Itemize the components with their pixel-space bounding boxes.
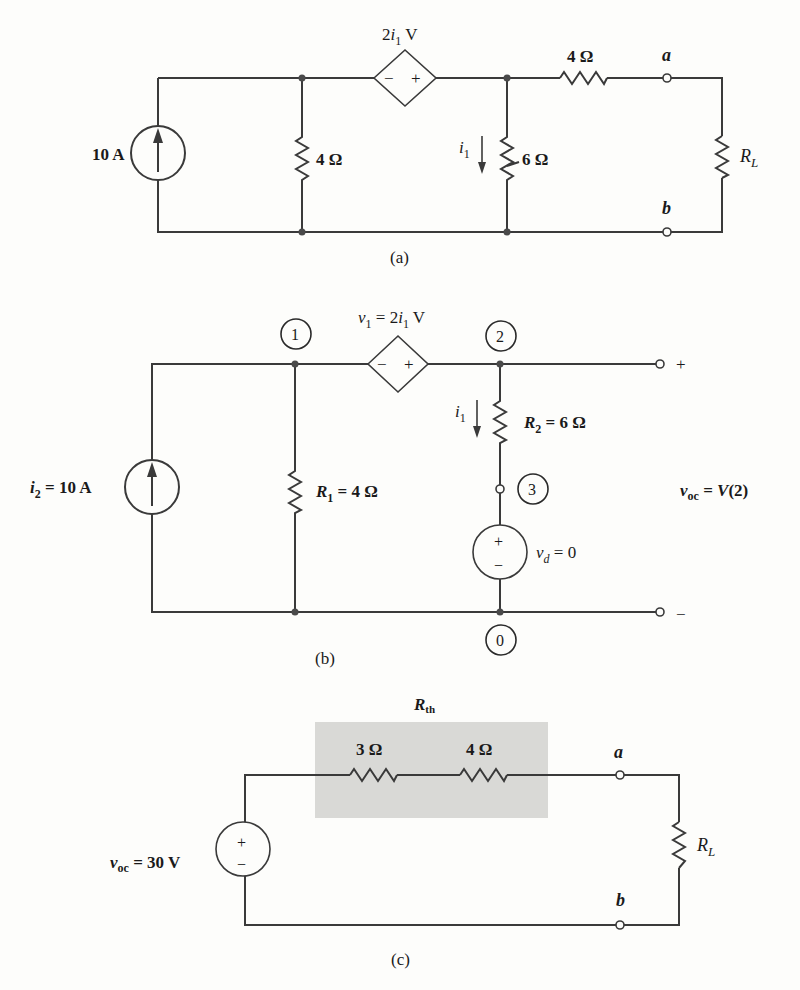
current-source-icon [125, 460, 179, 514]
junction-dot [299, 75, 306, 82]
resistor-4-label: 4 Ω [466, 740, 492, 759]
resistor-zigzag-icon [560, 72, 607, 84]
figure-a: 10 A 4 Ω − + 2i1 V 6 Ω i1 4 Ω a b RL [92, 25, 758, 267]
terminal-plus-label: + [676, 355, 686, 374]
circuit-figure: 10 A 4 Ω − + 2i1 V 6 Ω i1 4 Ω a b RL [0, 0, 800, 990]
svg-text:−: − [384, 69, 394, 88]
r2-label: R2 = 6 Ω [523, 413, 586, 436]
node-1-marker: 1 [281, 319, 311, 349]
svg-text:+: + [411, 69, 421, 88]
node-0-marker: 0 [486, 625, 516, 655]
load-resistor-icon [716, 136, 728, 178]
junction-dot [292, 361, 299, 368]
dependent-source-label: ν1 = 2i1 V [358, 308, 426, 331]
resistor-shunt-left-label: 4 Ω [316, 150, 342, 169]
junction-dot [504, 75, 511, 82]
source-label: νoc = 30 V [110, 853, 181, 875]
wire-c-load-bottom [624, 868, 679, 925]
terminal-a [616, 771, 624, 779]
voltage-source-icon: + − [473, 525, 527, 579]
terminal-b-label: b [662, 198, 671, 218]
wire-c-load-top [624, 775, 679, 822]
voltage-source-icon: + − [216, 822, 270, 876]
r1-label: R1 = 4 Ω [315, 482, 378, 505]
wire-a-load-bottom [671, 178, 722, 232]
terminal-b [616, 921, 624, 929]
figure-c: Rth 3 Ω 4 Ω + − νoc = 30 V a b RL (c) [110, 695, 715, 969]
svg-text:−: − [494, 557, 503, 574]
junction-dot [299, 229, 306, 236]
figure-b: i2 = 10 A R1 = 4 Ω − + ν1 = 2i1 V R2 = 6… [30, 308, 748, 668]
current-arrow-icon [473, 400, 481, 438]
terminal-plus [656, 360, 664, 368]
svg-text:−: − [237, 856, 246, 873]
resistor-zigzag-icon [494, 364, 506, 485]
svg-text:−: − [377, 355, 387, 374]
terminal-a [663, 74, 671, 82]
node-2-marker: 2 [486, 321, 516, 351]
node-3-marker: 3 [518, 474, 548, 504]
current-label: i1 [455, 402, 466, 425]
load-label: RL [696, 835, 715, 859]
terminal-a-label: a [662, 45, 671, 65]
resistor-zigzag-icon [501, 78, 519, 232]
load-resistor-icon [673, 822, 685, 868]
rth-label: Rth [413, 695, 435, 715]
dependent-voltage-source-icon: − + [374, 50, 436, 106]
wire-b-top-left [152, 364, 368, 460]
terminal-b-label: b [616, 890, 625, 910]
terminal-minus [656, 608, 664, 616]
current-source-label: i2 = 10 A [30, 478, 92, 501]
junction-dot [504, 229, 511, 236]
resistor-zigzag-icon [289, 364, 301, 612]
dependent-voltage-source-icon: − + [368, 336, 428, 392]
svg-text:3: 3 [528, 481, 536, 498]
junction-dot [292, 609, 299, 616]
dummy-source-label: νd = 0 [536, 543, 576, 566]
wire-b-bottom [152, 514, 656, 612]
svg-text:+: + [404, 355, 414, 374]
dependent-source-label: 2i1 V [382, 25, 418, 48]
svg-text:2: 2 [496, 328, 504, 345]
node-3-terminal [496, 485, 504, 493]
svg-text:0: 0 [496, 632, 504, 649]
resistor-zigzag-icon [296, 78, 308, 232]
resistor-3-label: 3 Ω [356, 740, 382, 759]
caption-a: (a) [390, 248, 409, 267]
current-arrow-icon [478, 136, 486, 174]
wire-a-bottom [158, 180, 663, 232]
output-equation: νoc = V(2) [680, 481, 748, 503]
caption-c: (c) [391, 950, 410, 969]
current-source-icon [131, 126, 185, 180]
svg-text:+: + [494, 533, 503, 550]
current-source-label: 10 A [92, 145, 125, 164]
terminal-minus-label: − [676, 605, 686, 624]
resistor-shunt-right-label: 6 Ω [522, 150, 548, 169]
load-label: RL [739, 146, 758, 170]
rth-shaded-box [315, 722, 548, 818]
current-label: i1 [459, 138, 470, 161]
terminal-b [663, 228, 671, 236]
wire-c-bottom [245, 876, 616, 925]
svg-text:1: 1 [291, 326, 299, 343]
junction-dot [497, 609, 504, 616]
caption-b: (b) [315, 649, 335, 668]
junction-dot [497, 361, 504, 368]
resistor-series-label: 4 Ω [567, 47, 593, 66]
wire-a-load-top [671, 78, 722, 136]
svg-text:+: + [237, 834, 246, 851]
terminal-a-label: a [614, 742, 623, 762]
